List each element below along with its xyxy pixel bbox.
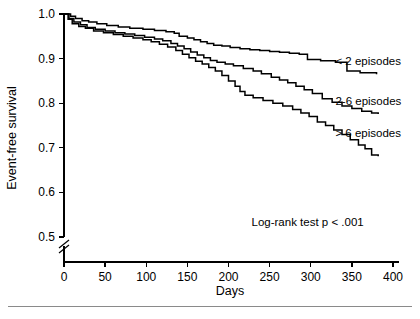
x-tick-label: 250 [260, 270, 280, 284]
x-tick-label: 0 [61, 270, 68, 284]
x-tick-label: 50 [98, 270, 112, 284]
km-survival-figure: 0.50.60.70.80.91.0 050100150200250300350… [0, 0, 420, 319]
survival-curve [64, 14, 377, 74]
y-tick-label: 1.0 [38, 7, 55, 21]
x-tick-label: 100 [136, 270, 156, 284]
survival-chart-svg: 0.50.60.70.80.91.0 050100150200250300350… [0, 0, 420, 319]
y-tick-label: 0.6 [38, 185, 55, 199]
figure-footer-rule [8, 306, 412, 307]
curve-labels: < 2 episodes2-6 episodes> 6 episodes [335, 55, 401, 138]
x-axis: 050100150200250300350400 [61, 262, 404, 284]
x-tick-label: 200 [218, 270, 238, 284]
curve-label: < 2 episodes [335, 55, 401, 67]
y-tick-label: 0.7 [38, 141, 55, 155]
y-tick-label: 0.5 [38, 230, 55, 244]
x-tick-label: 350 [342, 270, 362, 284]
survival-curve [64, 14, 378, 156]
x-tick-label: 400 [383, 270, 403, 284]
y-axis-title: Event-free survival [5, 86, 19, 190]
curve-label: > 6 episodes [335, 127, 401, 139]
survival-curve [64, 14, 378, 114]
x-tick-label: 300 [301, 270, 321, 284]
x-axis-title: Days [216, 284, 244, 298]
y-tick-label: 0.9 [38, 52, 55, 66]
survival-curves [64, 14, 378, 156]
curve-label: 2-6 episodes [335, 95, 401, 107]
x-tick-label: 150 [177, 270, 197, 284]
log-rank-annotation: Log-rank test p < .001 [252, 216, 364, 228]
chart-annotations: Log-rank test p < .001 [252, 216, 364, 228]
y-tick-label: 0.8 [38, 96, 55, 110]
y-axis: 0.50.60.70.80.91.0 [38, 7, 69, 262]
